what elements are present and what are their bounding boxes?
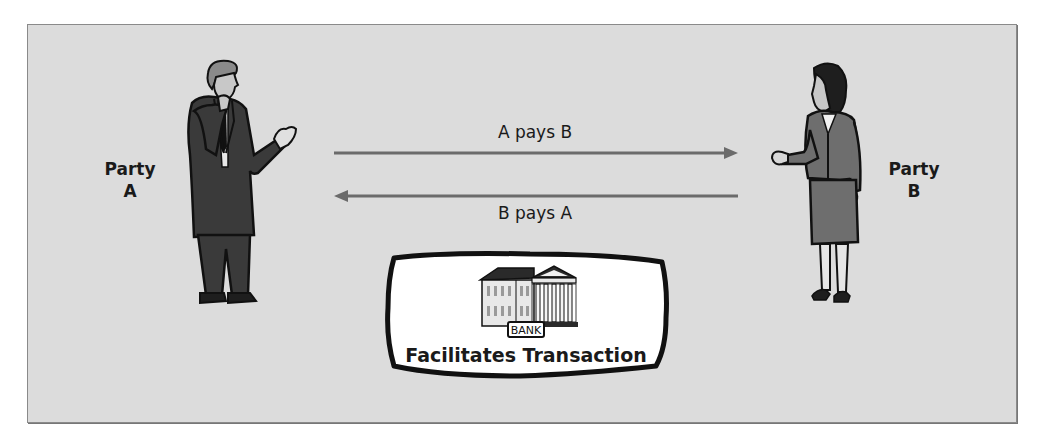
party-b-label-line2: B bbox=[882, 180, 946, 202]
arrow-label-a-pays-b: A pays B bbox=[435, 122, 635, 142]
businessman-icon bbox=[170, 55, 300, 310]
party-b-label: Party B bbox=[882, 158, 946, 202]
bank-building-icon: BANK bbox=[478, 262, 580, 344]
arrow-label-b-pays-a: B pays A bbox=[435, 203, 635, 223]
bank-sign-text: BANK bbox=[511, 324, 542, 337]
party-a-label-line2: A bbox=[98, 180, 162, 202]
arrow-left-icon bbox=[330, 188, 742, 204]
businesswoman-icon bbox=[768, 60, 878, 308]
party-a-label-line1: Party bbox=[98, 158, 162, 180]
party-b-label-line1: Party bbox=[882, 158, 946, 180]
bank-caption: Facilitates Transaction bbox=[380, 344, 672, 366]
bank-intermediary-box: BANK Facilitates Transaction bbox=[380, 248, 672, 382]
arrow-right-icon bbox=[330, 145, 742, 161]
party-a-label: Party A bbox=[98, 158, 162, 202]
